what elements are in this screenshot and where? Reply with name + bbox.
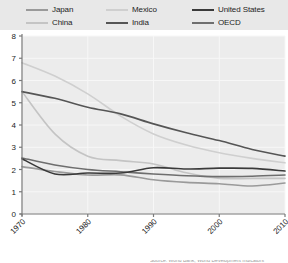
chart-legend: JapanChinaMexicoIndiaUnited StatesOECD <box>0 0 288 30</box>
x-tick-label: 2000 <box>206 217 225 236</box>
legend-item-oecd[interactable]: OECD <box>192 17 241 28</box>
legend-label: Mexico <box>132 4 157 15</box>
y-tick-label: 8 <box>12 32 17 41</box>
legend-swatch-icon <box>192 22 214 24</box>
legend-swatch-icon <box>192 9 214 11</box>
y-tick-label: 2 <box>12 166 17 175</box>
y-tick-label: 5 <box>12 99 17 108</box>
legend-swatch-icon <box>26 9 48 11</box>
legend-label: China <box>52 17 72 28</box>
legend-item-india[interactable]: India <box>106 17 149 28</box>
y-tick-label: 4 <box>12 121 17 130</box>
y-tick-label: 6 <box>12 77 17 86</box>
x-tick-label: 1980 <box>74 217 93 236</box>
plot-area: 01234567819701980199020002010 <box>0 30 288 263</box>
x-tick-label: 1970 <box>8 217 27 236</box>
legend-item-japan[interactable]: Japan <box>26 4 73 15</box>
legend-item-united-states[interactable]: United States <box>192 4 265 15</box>
legend-label: OECD <box>218 17 241 28</box>
x-tick-label: 2010 <box>271 217 288 236</box>
legend-swatch-icon <box>106 22 128 24</box>
legend-label: United States <box>218 4 265 15</box>
legend-swatch-icon <box>106 9 128 11</box>
legend-item-china[interactable]: China <box>26 17 72 28</box>
legend-label: India <box>132 17 149 28</box>
legend-label: Japan <box>52 4 73 15</box>
chart-figure: JapanChinaMexicoIndiaUnited StatesOECD 0… <box>0 0 288 263</box>
line-chart-svg: 01234567819701980199020002010 <box>0 30 288 263</box>
legend-swatch-icon <box>26 22 48 24</box>
y-tick-label: 0 <box>12 210 17 219</box>
y-tick-label: 1 <box>12 188 17 197</box>
x-tick-label: 1990 <box>140 217 159 236</box>
legend-item-mexico[interactable]: Mexico <box>106 4 157 15</box>
y-tick-label: 7 <box>12 54 17 63</box>
y-tick-label: 3 <box>12 143 17 152</box>
